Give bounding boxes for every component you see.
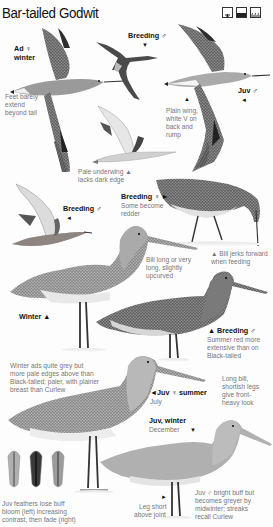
note-leg-short-2: above joint	[134, 511, 166, 520]
label-juv-winter: Juv, winter	[149, 417, 186, 426]
label-juv-male-flight: Juv ♂	[238, 87, 258, 96]
arrow-left-icon: ◄	[66, 214, 72, 223]
note-juv-male-4: recall Curlew	[195, 513, 233, 522]
label-winter: winter	[14, 54, 35, 63]
note-feet-3: beyond tail	[5, 109, 37, 118]
breeding-male-flight-illustration	[96, 42, 158, 100]
note-summer-red-3: Black-tailed	[207, 352, 241, 361]
arrow-down-icon: ▼	[190, 426, 196, 435]
label-breeding-male-raised: Breeding ♂	[63, 205, 102, 214]
label-breeding-male-standing: ▲ Breeding ♂	[208, 327, 256, 336]
label-juv-female-summer: ◄Juv ♀ summer	[150, 389, 207, 398]
note-winter-ads-4: breast than Curlew	[10, 386, 65, 395]
juv-male-flight-illustration	[164, 24, 270, 172]
note-feathers-3: contrast, then fade (right)	[2, 516, 76, 525]
arrow-down-icon: ▼	[142, 41, 148, 50]
arrow-left-icon: ◄	[241, 96, 247, 105]
breeding-male-wings-raised-illustration	[12, 184, 92, 246]
note-december: December	[149, 426, 179, 435]
label-winter-standing: Winter ▲	[19, 313, 50, 322]
note-july: July	[150, 398, 162, 407]
note-redder-2: redder	[121, 210, 140, 219]
label-breeding-female: Breeding ♀ ►	[121, 193, 169, 202]
note-bill-jerks-2: when feeding	[211, 258, 250, 267]
arrow-right-icon: ►	[161, 493, 167, 502]
breeding-female-feeding-illustration	[156, 179, 262, 247]
underwing-flight-illustration	[92, 106, 176, 164]
note-underwing-2: lacks dark edge	[78, 176, 124, 185]
note-long-bill-4: heavy look	[222, 399, 254, 408]
arrow-up-icon: ▲	[184, 95, 190, 104]
label-breeding-male-flight: Breeding ♂	[128, 32, 167, 41]
note-bill-long-3: upcurved	[146, 272, 173, 281]
field-guide-page: Bar-tailed Godwit	[0, 0, 273, 527]
note-plain-wing-4: rump	[166, 131, 181, 140]
feather-sequence-illustration	[8, 451, 64, 487]
